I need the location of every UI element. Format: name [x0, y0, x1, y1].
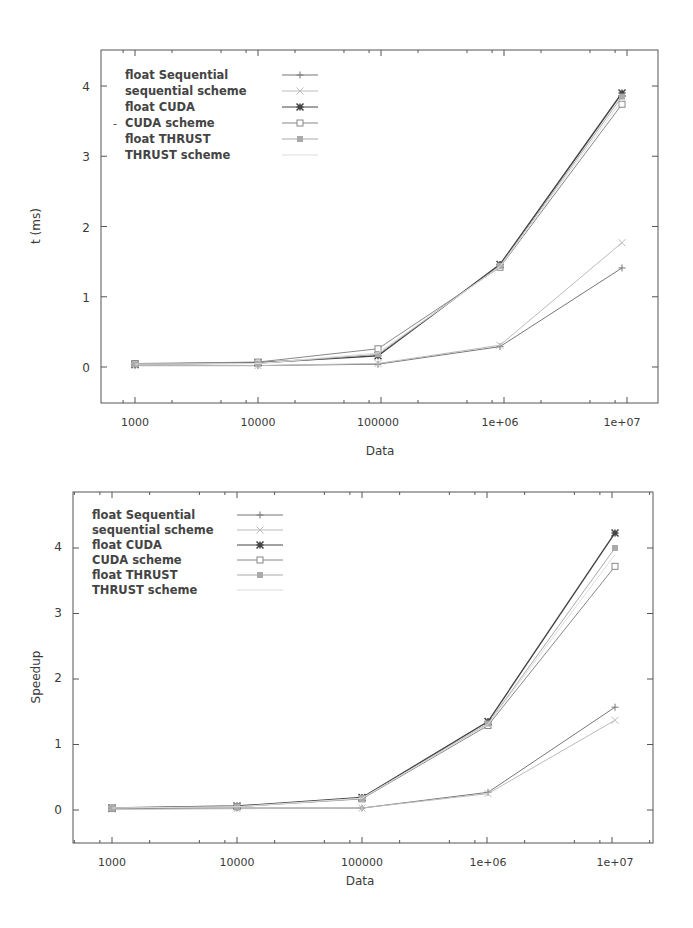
x-tick-label: 1e+06 [470, 856, 507, 869]
x-tick-label: 10000 [220, 856, 255, 869]
y-tick-label: 1 [82, 291, 90, 305]
y-axis-label: t (ms) [29, 208, 43, 244]
legend-label: THRUST scheme [92, 583, 197, 597]
legend-label: CUDA scheme [125, 116, 215, 130]
time-chart-plot: 0 1 2 3 4 1000 10000 100000 1e+06 1e+07 … [0, 0, 693, 470]
legend-sample [282, 72, 318, 79]
legend-label: CUDA scheme [92, 553, 182, 567]
y-tick-label: 2 [54, 671, 62, 685]
legend-dash: - [113, 117, 117, 130]
legend: float Sequential sequential scheme float… [92, 508, 214, 597]
series-line [109, 563, 618, 811]
legend: float Sequential sequential scheme float… [113, 68, 247, 162]
legend-label: THRUST scheme [125, 148, 230, 162]
y-tick-label: 4 [54, 540, 62, 554]
legend-sample [237, 512, 283, 519]
legend-label: float Sequential [125, 68, 228, 82]
x-tick-label: 1e+07 [604, 416, 641, 429]
x-tick-label: 100000 [341, 856, 383, 869]
x-tick-label: 100000 [357, 416, 399, 429]
legend-label: float THRUST [125, 132, 211, 146]
y-tick-label: 0 [82, 361, 90, 375]
legend-sample [282, 120, 318, 126]
legend-label: float CUDA [92, 538, 162, 552]
y-tick-labels: 0 1 2 3 4 [82, 80, 90, 375]
legend-sample [282, 104, 318, 111]
y-tick-label: 3 [54, 606, 62, 620]
plot-frame [73, 492, 653, 843]
series-line [109, 717, 619, 813]
y-axis-label: Speedup [29, 651, 43, 704]
x-tick-label: 1000 [98, 856, 126, 869]
y-tick-label: 0 [54, 803, 62, 817]
legend-sample [282, 88, 318, 95]
legend-label: float THRUST [92, 568, 178, 582]
legend-sample [237, 572, 283, 578]
legend-label: sequential scheme [125, 84, 247, 98]
legend-label: float Sequential [92, 508, 195, 522]
y-tick-label: 4 [82, 80, 90, 94]
legend-label: sequential scheme [92, 523, 214, 537]
legend-sample [282, 136, 318, 142]
legend-label: float CUDA [125, 100, 195, 114]
x-tick-label: 1000 [121, 416, 149, 429]
x-tick-labels: 1000 10000 100000 1e+06 1e+07 [121, 416, 640, 429]
x-tick-label: 1e+07 [597, 856, 634, 869]
y-tick-label: 2 [82, 221, 90, 235]
y-tick-label: 1 [54, 737, 62, 751]
series-line [109, 529, 619, 811]
series-line [109, 704, 619, 813]
x-axis-label: Data [366, 444, 395, 458]
axis-ticks [73, 492, 653, 843]
data-series [109, 512, 619, 813]
y-tick-labels: 0 1 2 3 4 [54, 540, 62, 817]
x-tick-labels: 1000 10000 100000 1e+06 1e+07 [98, 856, 633, 869]
legend-sample [237, 527, 283, 534]
x-tick-label: 10000 [241, 416, 276, 429]
x-tick-label: 1e+06 [482, 416, 519, 429]
legend-sample [237, 557, 283, 563]
series-line [112, 555, 615, 808]
y-tick-label: 3 [82, 150, 90, 164]
legend-sample [237, 542, 283, 549]
series-line [109, 545, 618, 811]
x-axis-label: Data [346, 874, 375, 888]
time-chart: 0 1 2 3 4 1000 10000 100000 1e+06 1e+07 … [0, 0, 693, 470]
